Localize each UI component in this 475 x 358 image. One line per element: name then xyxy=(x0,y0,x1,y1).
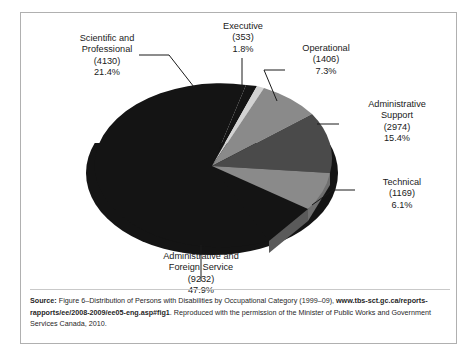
source-label: Source: xyxy=(30,296,57,305)
label-line-2: Support xyxy=(343,110,451,121)
label-operational: Operational (1406) 7.3% xyxy=(287,43,365,77)
source-divider xyxy=(30,289,450,290)
label-line-1: Executive xyxy=(207,21,279,32)
label-line-2: Foreign Service xyxy=(131,262,271,273)
label-percent: 1.8% xyxy=(207,44,279,55)
label-line-1: Administrative and xyxy=(131,251,271,262)
label-percent: 6.1% xyxy=(357,200,447,211)
label-scientific-and-professional: Scientific and Professional (4130) 21.4% xyxy=(55,33,159,79)
label-count: (353) xyxy=(207,32,279,43)
source-text-before-url: Figure 6–Distribution of Persons with Di… xyxy=(57,296,336,305)
label-count: (9232) xyxy=(131,274,271,285)
label-administrative-support: Administrative Support (2974) 15.4% xyxy=(343,99,451,145)
label-count: (2974) xyxy=(343,122,451,133)
label-line-1: Technical xyxy=(357,177,447,188)
source-note: Source: Figure 6–Distribution of Persons… xyxy=(30,295,450,330)
label-line-1: Administrative xyxy=(343,99,451,110)
label-percent: 7.3% xyxy=(287,66,365,77)
figure-frame: Scientific and Professional (4130) 21.4%… xyxy=(20,12,457,344)
label-technical: Technical (1169) 6.1% xyxy=(357,177,447,211)
label-executive: Executive (353) 1.8% xyxy=(207,21,279,55)
label-count: (1169) xyxy=(357,188,447,199)
pie-chart: Scientific and Professional (4130) 21.4%… xyxy=(21,13,458,301)
label-line-2: Professional xyxy=(55,44,159,55)
label-line-1: Scientific and xyxy=(55,33,159,44)
label-count: (4130) xyxy=(55,56,159,67)
label-line-1: Operational xyxy=(287,43,365,54)
label-count: (1406) xyxy=(287,54,365,65)
label-percent: 15.4% xyxy=(343,133,451,144)
label-percent: 21.4% xyxy=(55,67,159,78)
